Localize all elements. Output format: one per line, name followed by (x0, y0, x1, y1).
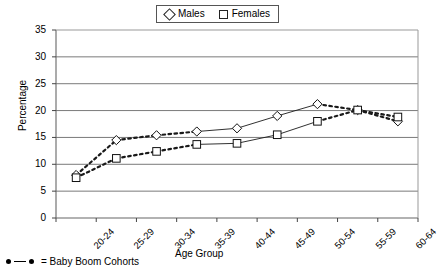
y-tick-label: 20 (24, 105, 46, 116)
y-tick-label: 15 (24, 131, 46, 142)
baby-boom-dot-left-icon (6, 259, 11, 264)
data-point-males (313, 100, 322, 109)
y-tick-label: 30 (24, 51, 46, 62)
data-point-females (153, 148, 161, 156)
y-tick-label: 35 (24, 24, 46, 35)
data-point-females (113, 155, 121, 163)
data-point-males (273, 111, 282, 120)
y-axis-ticks (52, 30, 56, 218)
baby-boom-line-icon (14, 261, 26, 263)
y-tick-label: 0 (24, 212, 46, 223)
footnote: = Baby Boom Cohorts (6, 256, 139, 267)
baby-boom-dot-right-icon (29, 259, 34, 264)
y-tick-label: 5 (24, 185, 46, 196)
data-point-females (193, 141, 201, 149)
data-point-females (394, 113, 402, 121)
footnote-label: = Baby Boom Cohorts (41, 256, 139, 267)
data-point-males (152, 131, 161, 140)
data-point-males (192, 127, 201, 136)
data-point-females (354, 106, 362, 114)
data-point-males (232, 124, 241, 133)
data-point-females (314, 118, 322, 126)
data-point-females (72, 174, 80, 182)
data-point-females (233, 140, 241, 148)
y-tick-label: 10 (24, 158, 46, 169)
y-tick-label: 25 (24, 78, 46, 89)
x-axis-ticks (56, 218, 418, 222)
data-point-females (273, 131, 281, 139)
